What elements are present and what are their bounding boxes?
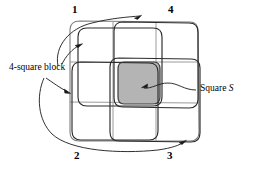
four-square-block-label: 4-square block [9,63,65,73]
corner-number-4: 4 [168,4,174,15]
square-s-label-symbol: S [229,83,234,93]
square-s-label-prefix: Square [200,83,229,93]
figure-container: 1 4 2 3 4-square block Square S [0,0,274,170]
shaded-square-fill [118,62,160,104]
corner-number-3: 3 [167,150,173,161]
corner-number-2: 2 [74,150,80,161]
corner-number-1: 1 [72,4,78,15]
shaded-square-s [118,62,160,104]
square-s-label: Square S [200,84,234,94]
